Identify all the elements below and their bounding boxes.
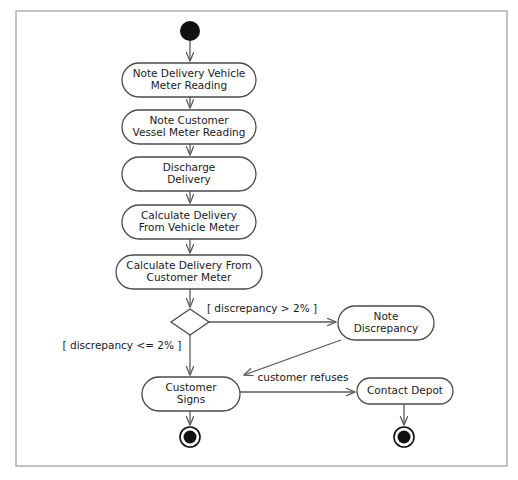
initial-node[interactable] — [180, 21, 200, 41]
activity-label: Note Customer — [149, 114, 229, 126]
activity-label: Vessel Meter Reading — [133, 126, 246, 138]
activity-label: Meter Reading — [151, 79, 227, 91]
labels-layer: [ discrepancy > 2% ][ discrepancy <= 2% … — [63, 302, 349, 383]
activity-note-delivery-vehicle-meter-reading[interactable]: Note Delivery VehicleMeter Reading — [122, 63, 256, 97]
activity-calculate-delivery-from-vehicle-meter[interactable]: Calculate DeliveryFrom Vehicle Meter — [122, 205, 256, 239]
guard-discrepancy-greater: [ discrepancy > 2% ] — [207, 302, 317, 314]
activity-label: From Vehicle Meter — [139, 221, 240, 233]
activity-customer-signs[interactable]: CustomerSigns — [142, 377, 240, 411]
activity-note-customer-vessel-meter-reading[interactable]: Note CustomerVessel Meter Reading — [122, 110, 256, 144]
activity-discharge-delivery[interactable]: DischargeDelivery — [122, 157, 256, 191]
edge-label-customer-refuses: customer refuses — [257, 371, 348, 383]
final-node-dot — [184, 431, 197, 444]
final-node-customer-signs[interactable] — [180, 427, 200, 447]
edge-edge-note-discrepancy-to-customer-signs — [244, 340, 341, 375]
activity-label: Calculate Delivery From — [126, 259, 251, 271]
activity-label: Note — [374, 310, 399, 322]
activity-label: Contact Depot — [367, 384, 443, 396]
activity-label: Note Delivery Vehicle — [133, 67, 246, 79]
final-node-contact-depot[interactable] — [394, 427, 414, 447]
nodes-layer: Note Delivery VehicleMeter ReadingNote C… — [116, 21, 453, 447]
activity-label: Customer Meter — [147, 271, 232, 283]
activity-label: Discrepancy — [354, 322, 419, 334]
activity-label: Discharge — [163, 161, 216, 173]
activity-label: Delivery — [167, 173, 211, 185]
guard-discrepancy-less-equal: [ discrepancy <= 2% ] — [63, 339, 182, 351]
activity-label: Calculate Delivery — [141, 209, 237, 221]
final-node-dot — [398, 431, 411, 444]
activity-diagram: Note Delivery VehicleMeter ReadingNote C… — [0, 0, 518, 480]
activity-label: Signs — [177, 393, 205, 405]
decision-node-discrepancy-decision[interactable] — [171, 309, 209, 335]
activity-contact-depot[interactable]: Contact Depot — [357, 378, 453, 404]
activity-calculate-delivery-from-customer-meter[interactable]: Calculate Delivery FromCustomer Meter — [116, 255, 262, 289]
activity-label: Customer — [165, 381, 217, 393]
diagram-canvas: Note Delivery VehicleMeter ReadingNote C… — [0, 0, 518, 480]
activity-note-discrepancy[interactable]: NoteDiscrepancy — [338, 306, 434, 340]
